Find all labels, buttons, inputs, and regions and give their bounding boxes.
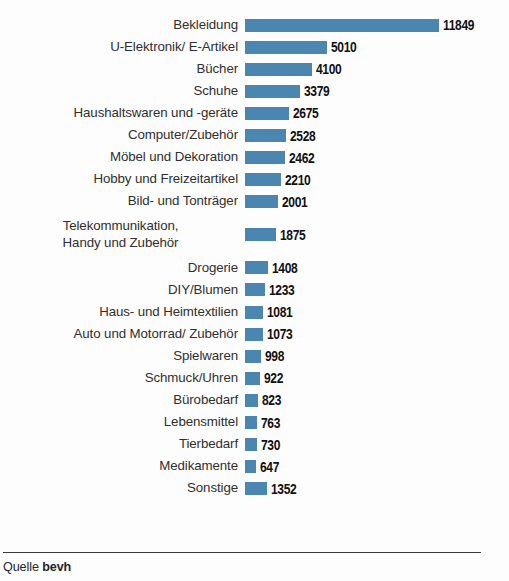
bar (245, 261, 268, 274)
bar-track: 2210 (245, 169, 509, 191)
category-label: Möbel und Dekoration (0, 149, 245, 166)
bar-row: Spielwaren998 (0, 345, 509, 367)
bar (245, 228, 276, 241)
category-label: Bekleidung (0, 17, 245, 34)
bar (245, 460, 256, 473)
bar (245, 438, 257, 451)
bar (245, 129, 286, 142)
bar-value-label: 2528 (290, 129, 315, 143)
bar-track: 11849 (245, 14, 509, 36)
bar-row: Computer/Zubehör2528 (0, 124, 509, 146)
bar-track: 2001 (245, 191, 509, 213)
bar-value-label: 2462 (289, 151, 314, 165)
bar (245, 283, 265, 296)
bar (245, 107, 289, 120)
category-label: Bücher (0, 61, 245, 78)
bar-row: Hobby und Freizeitartikel2210 (0, 169, 509, 191)
bar-track: 5010 (245, 36, 509, 58)
bar (245, 306, 263, 319)
bar-value-label: 3379 (304, 84, 329, 98)
bar (245, 173, 281, 186)
bar-track: 823 (245, 389, 509, 411)
bar-value-label: 763 (261, 416, 280, 430)
bar-row: Bürobedarf823 (0, 389, 509, 411)
bar-track: 998 (245, 345, 509, 367)
bar-value-label: 1408 (272, 261, 297, 275)
category-label: Sonstige (0, 480, 245, 497)
chart-plot-area: Bekleidung11849U-Elektronik/ E-Artikel50… (0, 14, 509, 500)
bar-track: 2675 (245, 102, 509, 124)
bar-value-label: 2210 (285, 173, 310, 187)
category-label: Medikamente (0, 458, 245, 475)
bar-row: Haus- und Heimtextilien1081 (0, 301, 509, 323)
bar-value-label: 1352 (271, 482, 296, 496)
bar-value-label: 4100 (316, 62, 341, 76)
bar (245, 63, 312, 76)
source-prefix-label: Quelle (3, 560, 39, 574)
category-label: Telekommunikation, Handy und Zubehör (0, 218, 245, 252)
bar-track: 2528 (245, 124, 509, 146)
category-label: Bürobedarf (0, 392, 245, 409)
category-label: Auto und Motorrad/ Zubehör (0, 326, 245, 343)
bar-row: Tierbedarf730 (0, 434, 509, 456)
bar-chart: Bekleidung11849U-Elektronik/ E-Artikel50… (0, 0, 509, 581)
bar-row: Haushaltswaren und -geräte2675 (0, 102, 509, 124)
bar (245, 151, 285, 164)
bar-value-label: 922 (264, 371, 283, 385)
bar-value-label: 647 (260, 460, 279, 474)
bar-value-label: 11849 (443, 18, 474, 32)
footer-divider (3, 552, 481, 553)
category-label: Bild- und Tonträger (0, 193, 245, 210)
category-label: Haus- und Heimtextilien (0, 304, 245, 321)
source-name-label: bevh (42, 560, 71, 574)
bar-row: DIY/Blumen1233 (0, 279, 509, 301)
bar-row: Telekommunikation, Handy und Zubehör1875 (0, 213, 509, 257)
bar-value-label: 1073 (267, 327, 292, 341)
bar-row: Bekleidung11849 (0, 14, 509, 36)
bar (245, 416, 257, 429)
bar-track: 1408 (245, 257, 509, 279)
bar-track: 1081 (245, 301, 509, 323)
bar-row: Sonstige1352 (0, 478, 509, 500)
bar (245, 328, 263, 341)
bar (245, 195, 278, 208)
bar-track: 763 (245, 412, 509, 434)
bar-track: 1233 (245, 279, 509, 301)
category-label: Drogerie (0, 260, 245, 277)
bar-value-label: 730 (261, 438, 280, 452)
bar-track: 4100 (245, 58, 509, 80)
category-label: Lebensmittel (0, 414, 245, 431)
category-label: Computer/Zubehör (0, 127, 245, 144)
bar-value-label: 823 (262, 393, 281, 407)
bar (245, 85, 300, 98)
bar (245, 394, 258, 407)
bar (245, 372, 260, 385)
bar-row: Auto und Motorrad/ Zubehör1073 (0, 323, 509, 345)
cropped-title-remnant (0, 0, 509, 9)
bar-track: 922 (245, 367, 509, 389)
category-label: Schuhe (0, 83, 245, 100)
bar (245, 350, 261, 363)
source-note: Quelle bevh (3, 560, 71, 574)
bar-value-label: 1081 (267, 305, 292, 319)
category-label: Tierbedarf (0, 436, 245, 453)
bar-row: Möbel und Dekoration2462 (0, 147, 509, 169)
bar (245, 19, 439, 32)
bar (245, 41, 327, 54)
bar-row: Medikamente647 (0, 456, 509, 478)
category-label: DIY/Blumen (0, 282, 245, 299)
bar-track: 2462 (245, 147, 509, 169)
category-label: Hobby und Freizeitartikel (0, 171, 245, 188)
bar-track: 1352 (245, 478, 509, 500)
bar-value-label: 2001 (282, 195, 307, 209)
category-label: Haushaltswaren und -geräte (0, 105, 245, 122)
bar-row: Bücher4100 (0, 58, 509, 80)
bar-row: Schuhe3379 (0, 80, 509, 102)
bar-row: U-Elektronik/ E-Artikel5010 (0, 36, 509, 58)
bar-track: 1073 (245, 323, 509, 345)
bar-row: Lebensmittel763 (0, 412, 509, 434)
bar-track: 730 (245, 434, 509, 456)
bar-value-label: 5010 (331, 40, 356, 54)
bar-row: Drogerie1408 (0, 257, 509, 279)
bar-track: 3379 (245, 80, 509, 102)
